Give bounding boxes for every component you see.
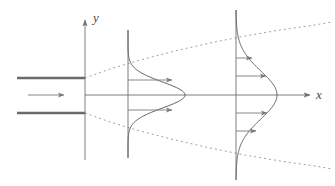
nozzle-group bbox=[17, 78, 85, 113]
spreading-boundary-group bbox=[85, 22, 332, 169]
y-axis-label: y bbox=[91, 10, 99, 25]
axes-group: x y bbox=[85, 10, 322, 160]
spreading-boundary-lower bbox=[85, 113, 332, 169]
station-1-velocity-profile bbox=[128, 30, 185, 158]
station-1-group bbox=[128, 30, 185, 158]
x-axis-label: x bbox=[315, 87, 322, 102]
spreading-boundary-upper bbox=[85, 22, 332, 78]
jet-diagram-figure: x y bbox=[0, 0, 335, 186]
station-2-velocity-arrows bbox=[236, 58, 267, 131]
jet-diagram-canvas: x y bbox=[0, 0, 335, 186]
